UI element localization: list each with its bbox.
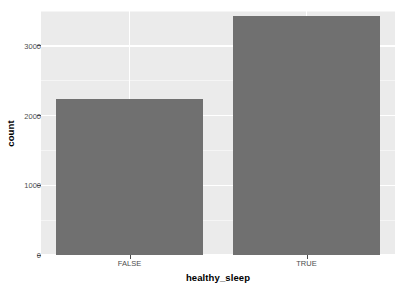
bar-true[interactable] [233,16,379,255]
y-axis-ticks: 0100020003000 [0,0,41,291]
bar-false[interactable] [56,99,202,255]
x-tick-label-false: FALSE [118,259,141,268]
bar-chart: count 0100020003000 FALSETRUE healthy_sl… [0,0,409,291]
x-axis-title: healthy_sleep [41,272,395,283]
y-tick-label-3000: 3000 [5,41,41,50]
x-tick-label-true: TRUE [296,259,316,268]
y-tick-label-2000: 2000 [5,111,41,120]
y-tick-label-0: 0 [5,251,41,260]
plot-panel [41,11,395,255]
y-tick-label-1000: 1000 [5,181,41,190]
gridline-minor [41,11,395,12]
